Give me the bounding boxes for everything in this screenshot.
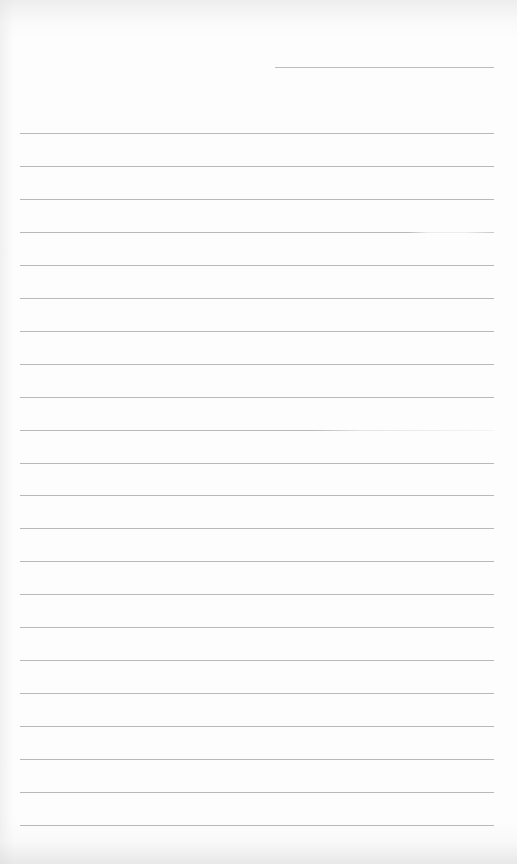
ruled-line [20, 627, 494, 628]
ruled-line [20, 430, 494, 431]
header-name-line [275, 67, 494, 68]
ruled-line [20, 166, 494, 167]
ruled-line [20, 561, 494, 562]
ruled-line [20, 792, 494, 793]
ruled-line [20, 199, 494, 200]
ruled-line [20, 726, 494, 727]
ruled-line [20, 133, 494, 134]
ruled-line [20, 298, 494, 299]
ruled-line [20, 364, 494, 365]
ruled-line [20, 232, 494, 233]
ruled-line [20, 693, 494, 694]
ruled-line [20, 660, 494, 661]
ruled-line [20, 759, 494, 760]
ruled-line [20, 463, 494, 464]
ruled-line [20, 825, 494, 826]
ruled-line [20, 528, 494, 529]
lined-paper-sheet [0, 0, 517, 864]
ruled-line [20, 495, 494, 496]
ruled-line [20, 265, 494, 266]
ruled-line [20, 331, 494, 332]
ruled-line [20, 594, 494, 595]
ruled-line [20, 397, 494, 398]
